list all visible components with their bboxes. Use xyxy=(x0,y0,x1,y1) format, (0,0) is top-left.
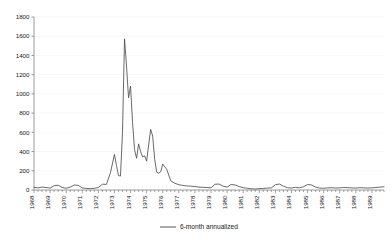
svg-text:1000: 1000 xyxy=(16,90,30,97)
svg-text:1977: 1977 xyxy=(173,195,180,209)
x-axis xyxy=(34,190,384,193)
svg-text:1969: 1969 xyxy=(44,195,51,209)
svg-text:1975: 1975 xyxy=(141,195,148,209)
svg-text:0: 0 xyxy=(26,186,30,193)
svg-text:1970: 1970 xyxy=(60,195,67,209)
svg-text:1978: 1978 xyxy=(189,195,196,209)
y-axis xyxy=(32,17,35,190)
svg-text:1988: 1988 xyxy=(350,195,357,209)
svg-text:1982: 1982 xyxy=(253,195,260,209)
chart-container: 020040060080010001200140016001800 196819… xyxy=(0,0,392,240)
svg-text:1968: 1968 xyxy=(28,195,35,209)
svg-text:1400: 1400 xyxy=(16,52,30,59)
svg-text:1200: 1200 xyxy=(16,71,30,78)
svg-text:1976: 1976 xyxy=(157,195,164,209)
svg-text:1800: 1800 xyxy=(16,13,30,20)
svg-text:1979: 1979 xyxy=(205,195,212,209)
x-axis-tick-labels: 1968196919701971197219731974197519761977… xyxy=(28,195,373,209)
y-axis-tick-labels: 020040060080010001200140016001800 xyxy=(16,13,30,193)
svg-text:1983: 1983 xyxy=(269,195,276,209)
svg-text:1600: 1600 xyxy=(16,32,30,39)
svg-text:200: 200 xyxy=(19,167,30,174)
svg-text:1986: 1986 xyxy=(318,195,325,209)
legend-label: 6-month annualized xyxy=(180,223,238,230)
svg-text:1980: 1980 xyxy=(221,195,228,209)
line-chart: 020040060080010001200140016001800 196819… xyxy=(0,0,392,240)
svg-text:600: 600 xyxy=(19,129,30,136)
svg-text:800: 800 xyxy=(19,109,30,116)
svg-text:1984: 1984 xyxy=(285,195,292,209)
svg-text:1987: 1987 xyxy=(334,195,341,209)
svg-text:1974: 1974 xyxy=(125,195,132,209)
svg-text:1985: 1985 xyxy=(302,195,309,209)
svg-text:1971: 1971 xyxy=(76,195,83,209)
svg-text:400: 400 xyxy=(19,148,30,155)
svg-text:1989: 1989 xyxy=(366,195,373,209)
legend: 6-month annualized xyxy=(160,223,238,230)
svg-text:1981: 1981 xyxy=(237,195,244,209)
svg-text:1973: 1973 xyxy=(108,195,115,209)
data-series-line xyxy=(34,39,384,189)
svg-text:1972: 1972 xyxy=(92,195,99,209)
grid-lines xyxy=(34,17,384,171)
